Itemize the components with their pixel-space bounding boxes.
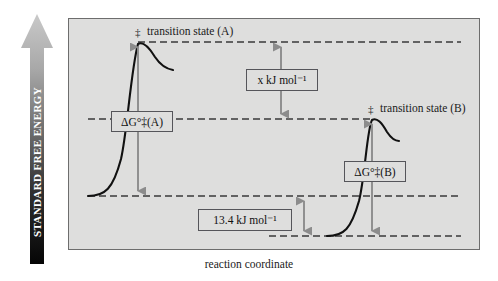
figure-root: STANDARD FREE ENERGY	[0, 0, 498, 281]
x-axis-label: reaction coordinate	[0, 258, 498, 270]
annotation-box-delta-g-b: ΔG°‡(B)	[344, 161, 406, 182]
annotation-box-barrier-difference: x kJ mol⁻¹	[246, 69, 318, 91]
annotation-box-delta-g-a: ΔG°‡(A)	[111, 111, 173, 132]
transition-state-a-label: transition state (A)	[147, 25, 233, 37]
double-dagger-icon-b: ‡	[368, 104, 374, 115]
double-dagger-icon-a: ‡	[135, 27, 141, 38]
annotation-box-energy-difference: 13.4 kJ mol⁻¹	[198, 209, 292, 231]
plot-panel: ‡ transition state (A) ‡ transition stat…	[68, 18, 480, 250]
standard-free-energy-axis-arrow: STANDARD FREE ENERGY	[20, 14, 54, 264]
up-arrow-icon	[20, 14, 54, 264]
transition-state-b-label: transition state (B)	[380, 102, 466, 114]
